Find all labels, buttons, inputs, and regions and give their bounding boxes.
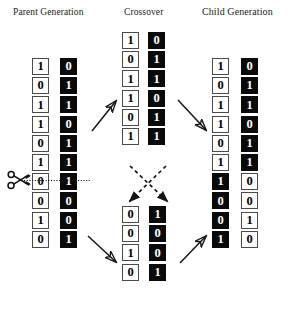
bit-cell: 1: [148, 109, 165, 126]
bit-cell: 1: [212, 154, 229, 171]
bit-cell: 0: [148, 32, 165, 49]
bit-cell: 0: [32, 231, 49, 248]
arrow-cross-topleft-to-bottomright: [130, 166, 168, 202]
bit-cell: 1: [212, 231, 229, 248]
bit-cell: 0: [241, 116, 258, 133]
bit-cell: 1: [60, 77, 77, 94]
bit-cell: 0: [60, 116, 77, 133]
bit-cell: 1: [32, 212, 49, 229]
bit-cell: 0: [122, 51, 139, 68]
bit-cell: 1: [32, 154, 49, 171]
crossover-diagram: Parent Generation Crossover Child Genera…: [0, 0, 290, 310]
bit-cell: 1: [122, 32, 139, 49]
bit-cell: 1: [149, 264, 166, 281]
bit-cell: 0: [122, 264, 139, 281]
bit-cell: 0: [60, 212, 77, 229]
bit-cell: 0: [241, 58, 258, 75]
bit-cell: 1: [241, 135, 258, 152]
bit-cell: 1: [32, 116, 49, 133]
arrow-parent-bottom-to-crossover-bottom: [88, 236, 116, 262]
bit-cell: 0: [148, 90, 165, 107]
bit-cell: 1: [60, 173, 77, 190]
bit-cell: 0: [212, 192, 229, 209]
bit-cell: 0: [241, 231, 258, 248]
bit-cell: 1: [241, 212, 258, 229]
bit-cell: 1: [122, 70, 139, 87]
bit-cell: 1: [149, 206, 166, 223]
bit-cell: 1: [212, 58, 229, 75]
bit-cell: 1: [241, 96, 258, 113]
bit-cell: 0: [122, 225, 139, 242]
crossover-top-segment-b: 011011: [148, 32, 165, 147]
bit-cell: 0: [149, 225, 166, 242]
crossover-title: Crossover: [124, 7, 163, 17]
bit-cell: 1: [212, 96, 229, 113]
bit-cell: 0: [212, 212, 229, 229]
bit-cell: 0: [122, 109, 139, 126]
arrow-crossover-bottom-to-child-bottom: [180, 236, 206, 263]
bit-cell: 0: [122, 206, 139, 223]
child-generation-title: Child Generation: [202, 6, 273, 17]
parent-generation-title: Parent Generation: [13, 7, 84, 17]
bit-cell: 1: [60, 96, 77, 113]
bit-cell: 1: [122, 90, 139, 107]
bit-cell: 1: [148, 51, 165, 68]
crossover-top-segment-a: 101101: [122, 32, 139, 147]
bit-cell: 0: [32, 173, 49, 190]
bit-cell: 0: [60, 58, 77, 75]
bit-cell: 0: [212, 77, 229, 94]
child-chromosome-a: 1011011001: [212, 58, 229, 250]
bit-cell: 1: [60, 135, 77, 152]
bit-cell: 1: [241, 77, 258, 94]
bit-cell: 1: [32, 96, 49, 113]
child-chromosome-b: 0110110010: [241, 58, 258, 250]
bit-cell: 0: [32, 135, 49, 152]
scissors-icon: [8, 171, 30, 188]
bit-cell: 1: [148, 128, 165, 145]
bit-cell: 1: [122, 128, 139, 145]
bit-cell: 1: [148, 70, 165, 87]
bit-cell: 1: [60, 231, 77, 248]
bit-cell: 0: [32, 192, 49, 209]
arrow-parent-top-to-crossover-top: [92, 101, 116, 131]
crossover-bottom-segment-a: 0010: [122, 206, 139, 283]
bit-cell: 0: [241, 192, 258, 209]
bit-cell: 1: [122, 244, 139, 261]
bit-cell: 0: [149, 244, 166, 261]
bit-cell: 1: [60, 154, 77, 171]
bit-cell: 0: [241, 173, 258, 190]
parent-chromosome-b: 0110111001: [60, 58, 77, 250]
bit-cell: 1: [212, 116, 229, 133]
bit-cell: 0: [60, 192, 77, 209]
bit-cell: 0: [212, 135, 229, 152]
bit-cell: 0: [32, 77, 49, 94]
arrow-cross-topright-to-bottomleft: [129, 166, 166, 202]
bit-cell: 1: [212, 173, 229, 190]
bit-cell: 1: [241, 154, 258, 171]
parent-chromosome-a: 1011010010: [32, 58, 49, 250]
arrow-crossover-top-to-child-top: [178, 100, 206, 130]
bit-cell: 1: [32, 58, 49, 75]
crossover-bottom-segment-b: 1001: [149, 206, 166, 283]
